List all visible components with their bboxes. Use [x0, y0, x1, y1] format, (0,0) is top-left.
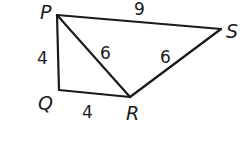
length-label-pq: 4 — [37, 48, 48, 68]
length-label-ps: 9 — [134, 0, 145, 19]
segment-rs — [130, 29, 221, 97]
segment-qr — [59, 90, 130, 97]
vertex-label-q: Q — [38, 92, 53, 114]
length-label-rs: 6 — [160, 47, 171, 67]
segment-pr — [57, 15, 130, 97]
vertex-label-r: R — [126, 102, 139, 124]
segment-pq — [57, 15, 59, 90]
vertex-label-p: P — [40, 1, 52, 23]
geometry-diagram: P Q R S 9 4 4 6 6 — [0, 0, 248, 154]
length-label-pr: 6 — [100, 43, 111, 63]
vertex-label-s: S — [226, 20, 238, 42]
length-label-qr: 4 — [82, 102, 93, 122]
